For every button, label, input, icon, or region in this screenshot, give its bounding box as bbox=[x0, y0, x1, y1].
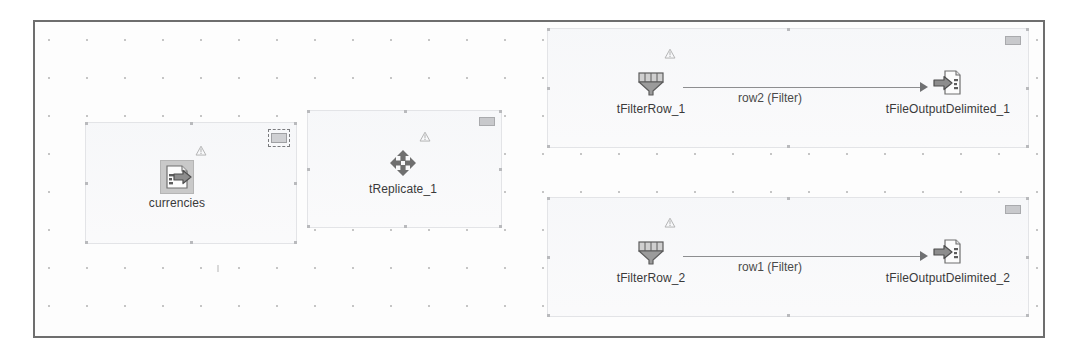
component-label: tReplicate_1 bbox=[348, 182, 458, 196]
component-tfileoutputdelimited-1[interactable]: tFileOutputDelimited_1 bbox=[873, 67, 1023, 116]
warning-badge bbox=[664, 217, 676, 229]
subjob-collapse-widget[interactable] bbox=[1005, 36, 1021, 45]
component-currencies[interactable]: currencies bbox=[122, 161, 232, 210]
file-output-icon[interactable] bbox=[932, 67, 964, 99]
connection-label[interactable]: row2 (Filter) bbox=[738, 91, 802, 105]
component-label: currencies bbox=[122, 196, 232, 210]
subjob-filter-row-2[interactable]: row1 (Filter) tFilterRow_2 bbox=[547, 197, 1029, 317]
component-label: tFilterRow_1 bbox=[596, 102, 706, 116]
funnel-filter-icon[interactable] bbox=[635, 236, 667, 268]
file-output-icon[interactable] bbox=[932, 236, 964, 268]
subjob-treplicate[interactable]: tReplicate_1 bbox=[307, 110, 502, 228]
funnel-filter-icon[interactable] bbox=[635, 67, 667, 99]
component-label: tFilterRow_2 bbox=[596, 271, 706, 285]
component-treplicate-1[interactable]: tReplicate_1 bbox=[348, 147, 458, 196]
subjob-currencies[interactable]: currencies bbox=[85, 122, 297, 244]
subjob-collapse-widget[interactable] bbox=[1005, 205, 1021, 214]
subjob-filter-row-1[interactable]: row2 (Filter) tFilterRow_1 bbox=[547, 28, 1029, 148]
warning-badge bbox=[664, 48, 676, 60]
component-tfileoutputdelimited-2[interactable]: tFileOutputDelimited_2 bbox=[873, 236, 1023, 285]
subjob-collapse-widget[interactable] bbox=[479, 117, 495, 126]
canvas-artifact bbox=[217, 265, 219, 272]
screenshot-root: currencies bbox=[0, 0, 1082, 364]
connection-label[interactable]: row1 (Filter) bbox=[738, 260, 802, 274]
replicate-arrows-icon[interactable] bbox=[387, 147, 419, 179]
component-tfilterrow-1[interactable]: tFilterRow_1 bbox=[596, 67, 706, 116]
component-label: tFileOutputDelimited_1 bbox=[873, 102, 1023, 116]
component-tfilterrow-2[interactable]: tFilterRow_2 bbox=[596, 236, 706, 285]
component-label: tFileOutputDelimited_2 bbox=[873, 271, 1023, 285]
warning-badge bbox=[195, 145, 207, 157]
job-designer-canvas[interactable]: currencies bbox=[33, 20, 1045, 338]
subjob-collapse-widget[interactable] bbox=[268, 129, 290, 147]
file-input-icon[interactable] bbox=[161, 161, 193, 193]
warning-badge bbox=[419, 131, 431, 143]
